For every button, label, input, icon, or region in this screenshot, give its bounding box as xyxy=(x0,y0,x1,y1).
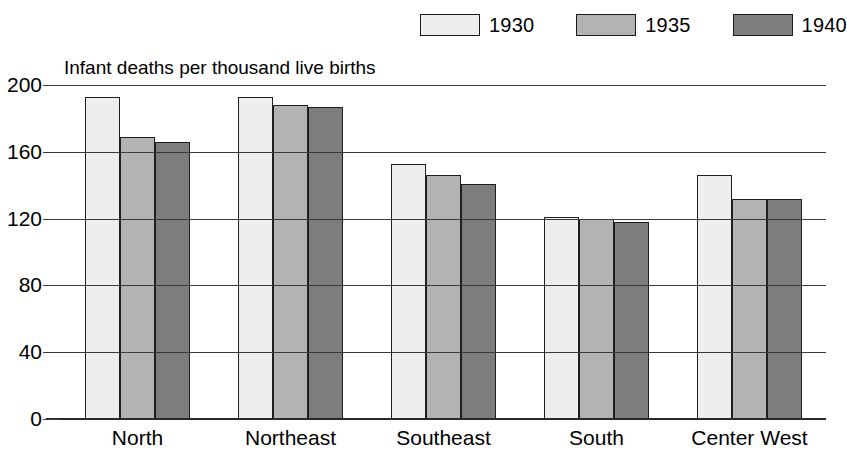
bar-center-west-1940[interactable] xyxy=(767,199,802,419)
y-tick-label-0: 0 xyxy=(30,408,42,429)
x-axis-labels: NorthNortheastSoutheastSouthCenter West xyxy=(61,425,826,457)
legend-label-1935: 1935 xyxy=(645,14,690,36)
bar-group-northeast xyxy=(238,85,343,419)
y-tick-200 xyxy=(43,85,61,86)
gridline-80 xyxy=(61,285,826,286)
plot-area xyxy=(61,85,826,419)
x-label-north: North xyxy=(61,425,214,451)
bar-southeast-1930[interactable] xyxy=(391,164,426,420)
bar-northeast-1940[interactable] xyxy=(308,107,343,419)
y-tick-label-80: 80 xyxy=(19,274,42,295)
x-axis-line xyxy=(46,418,826,420)
x-label-south: South xyxy=(520,425,673,451)
bar-center-west-1930[interactable] xyxy=(697,175,732,419)
bar-south-1930[interactable] xyxy=(544,217,579,419)
gridline-160 xyxy=(61,152,826,153)
y-tick-label-160: 160 xyxy=(7,141,42,162)
y-tick-label-40: 40 xyxy=(19,341,42,362)
y-tick-120 xyxy=(43,219,61,220)
bar-north-1930[interactable] xyxy=(85,97,120,419)
y-axis-labels: 04080120160200 xyxy=(0,85,42,419)
x-label-center-west: Center West xyxy=(673,425,826,451)
bar-south-1935[interactable] xyxy=(579,219,614,419)
y-tick-40 xyxy=(43,352,61,353)
y-tick-label-200: 200 xyxy=(7,74,42,95)
legend-swatch-1940 xyxy=(733,14,793,36)
legend-item-1930: 1930 xyxy=(420,14,534,36)
legend-item-1935: 1935 xyxy=(576,14,690,36)
bar-north-1940[interactable] xyxy=(155,142,190,419)
chart-legend: 1930 1935 1940 xyxy=(420,8,820,42)
bar-northeast-1930[interactable] xyxy=(238,97,273,419)
y-tick-80 xyxy=(43,285,61,286)
bar-southeast-1935[interactable] xyxy=(426,175,461,419)
chart-title: Infant deaths per thousand live births xyxy=(64,57,376,79)
y-tick-160 xyxy=(43,152,61,153)
gridline-200 xyxy=(61,85,826,86)
bar-north-1935[interactable] xyxy=(120,137,155,419)
bar-group-north xyxy=(85,85,190,419)
legend-label-1940: 1940 xyxy=(802,14,847,36)
bar-south-1940[interactable] xyxy=(614,222,649,419)
bar-center-west-1935[interactable] xyxy=(732,199,767,419)
legend-swatch-1935 xyxy=(576,14,636,36)
y-tick-0 xyxy=(43,419,61,420)
gridline-40 xyxy=(61,352,826,353)
x-label-northeast: Northeast xyxy=(214,425,367,451)
gridline-120 xyxy=(61,219,826,220)
y-tick-label-120: 120 xyxy=(7,208,42,229)
legend-item-1940: 1940 xyxy=(733,14,847,36)
bar-group-southeast xyxy=(391,85,496,419)
bar-group-south xyxy=(544,85,649,419)
x-label-southeast: Southeast xyxy=(367,425,520,451)
legend-label-1930: 1930 xyxy=(489,14,534,36)
bar-group-center-west xyxy=(697,85,802,419)
bars-layer xyxy=(61,85,826,419)
legend-swatch-1930 xyxy=(420,14,480,36)
